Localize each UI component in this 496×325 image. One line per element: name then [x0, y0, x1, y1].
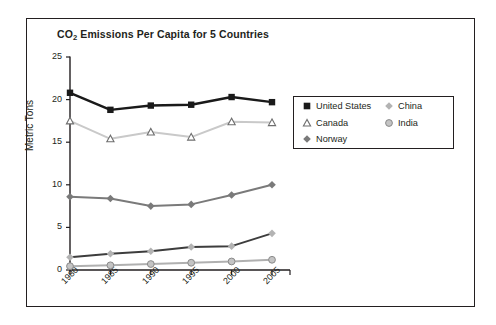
series-line — [70, 121, 272, 139]
marker-diamond — [228, 242, 236, 250]
marker-circle — [67, 263, 74, 270]
marker-square — [148, 102, 154, 108]
legend-label: United States — [316, 101, 371, 111]
series-line — [70, 185, 272, 206]
legend-label: India — [398, 118, 418, 128]
marker-square — [304, 103, 311, 110]
legend-item-china[interactable]: China — [382, 100, 422, 112]
marker-diamond — [303, 135, 311, 143]
marker-diamond — [147, 247, 155, 255]
marker-diamond — [187, 201, 195, 209]
legend-item-canada[interactable]: Canada — [300, 117, 348, 129]
series-norway — [66, 181, 276, 210]
legend-item-norway[interactable]: Norway — [300, 133, 347, 145]
legend-label: China — [398, 101, 422, 111]
marker-circle — [228, 258, 235, 265]
marker-diamond — [66, 193, 74, 201]
marker-triangle — [303, 119, 310, 126]
marker-circle — [107, 262, 114, 269]
marker-square — [188, 102, 194, 108]
marker-diamond — [228, 191, 236, 199]
marker-circle — [269, 256, 276, 263]
chart-figure: CO2 Emissions Per Capita for 5 Countries… — [0, 0, 496, 325]
series-china — [66, 230, 276, 261]
series-line — [70, 260, 272, 266]
series-india — [67, 256, 276, 269]
marker-diamond — [385, 102, 393, 110]
series-united-states — [67, 90, 275, 113]
marker-diamond — [107, 195, 115, 203]
series-line — [70, 93, 272, 110]
legend-marker-filled-diamond-icon — [300, 133, 314, 145]
legend-marker-circle-icon — [382, 117, 396, 129]
plot-area — [0, 0, 496, 325]
legend-label: Canada — [316, 118, 348, 128]
marker-diamond — [187, 243, 195, 251]
marker-square — [269, 99, 275, 105]
marker-triangle — [66, 117, 73, 124]
marker-diamond — [268, 230, 276, 238]
marker-circle — [147, 261, 154, 268]
series-canada — [66, 117, 275, 141]
legend-marker-filled-square-icon — [300, 100, 314, 112]
legend-label: Norway — [316, 134, 347, 144]
marker-diamond — [147, 202, 155, 210]
marker-diamond — [268, 181, 276, 189]
marker-diamond — [66, 253, 74, 261]
legend-marker-open-triangle-icon — [300, 117, 314, 129]
series-line — [70, 233, 272, 257]
marker-square — [67, 90, 73, 96]
legend-marker-filled-diamond-light-icon — [382, 100, 396, 112]
legend-item-united-states[interactable]: United States — [300, 100, 371, 112]
marker-square — [228, 94, 234, 100]
marker-circle — [188, 259, 195, 266]
legend-item-india[interactable]: India — [382, 117, 418, 129]
marker-circle — [386, 120, 393, 127]
marker-square — [107, 107, 113, 113]
marker-diamond — [107, 250, 115, 258]
chart-legend: United StatesCanadaNorwayChinaIndia — [293, 96, 454, 149]
